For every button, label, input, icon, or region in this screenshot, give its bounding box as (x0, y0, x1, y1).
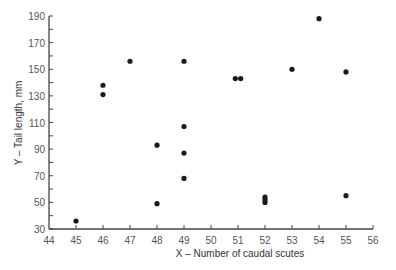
y-tick-label: 70 (34, 171, 46, 182)
data-points (73, 16, 348, 224)
x-tick-label: 55 (340, 235, 352, 246)
x-tick-label: 51 (232, 235, 244, 246)
y-axis-label: Y – Tail length, mm (13, 81, 24, 166)
y-tick-label: 170 (28, 38, 45, 49)
data-point (238, 76, 243, 81)
data-point (262, 200, 267, 205)
y-tick-label: 90 (34, 144, 46, 155)
x-tick-label: 50 (205, 235, 217, 246)
x-tick-label: 56 (367, 235, 379, 246)
x-tick-label: 48 (151, 235, 163, 246)
x-tick-label: 54 (313, 235, 325, 246)
data-point (233, 76, 238, 81)
x-tick-label: 46 (97, 235, 109, 246)
data-point (181, 124, 186, 129)
x-axis-label: X – Number of caudal scutes (176, 248, 304, 259)
x-tick-label: 47 (124, 235, 136, 246)
data-point (127, 59, 132, 64)
data-point (343, 193, 348, 198)
y-tick-label: 150 (28, 64, 45, 75)
axes: 4445464748495051525354555630507090110130… (28, 11, 379, 246)
data-point (100, 92, 105, 97)
data-point (181, 151, 186, 156)
data-point (316, 16, 321, 21)
x-tick-label: 44 (43, 235, 55, 246)
y-tick-label: 130 (28, 91, 45, 102)
data-point (343, 69, 348, 74)
y-tick-label: 50 (34, 197, 46, 208)
y-tick-label: 110 (29, 118, 45, 129)
data-point (181, 59, 186, 64)
y-tick-label: 30 (34, 224, 46, 235)
data-point (100, 83, 105, 88)
x-tick-label: 49 (178, 235, 190, 246)
data-point (181, 176, 186, 181)
x-tick-label: 45 (70, 235, 82, 246)
data-point (73, 218, 78, 223)
data-point (289, 67, 294, 72)
x-tick-label: 53 (286, 235, 298, 246)
data-point (154, 201, 159, 206)
y-tick-label: 190 (28, 11, 45, 22)
scatter-chart: 4445464748495051525354555630507090110130… (0, 0, 396, 270)
x-tick-label: 52 (259, 235, 271, 246)
data-point (154, 143, 159, 148)
